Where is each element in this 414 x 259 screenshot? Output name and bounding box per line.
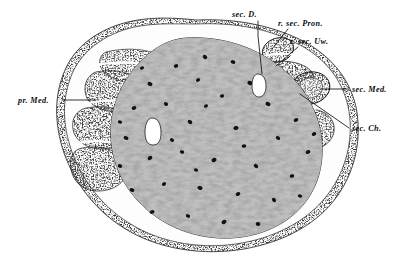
left-vacuole-lumen <box>145 118 161 145</box>
label-sec-d: sec. D. <box>231 10 257 19</box>
figure-root: sec. D. r. sec. Pron. r. sec. Uw. sec. M… <box>0 0 414 259</box>
label-sec-ch: sec. Ch. <box>351 124 381 133</box>
cross-section-illustration: sec. D. r. sec. Pron. r. sec. Uw. sec. M… <box>0 0 414 259</box>
label-r-sec-pron: r. sec. Pron. <box>278 19 323 28</box>
secondary-duct-lumen <box>252 74 266 97</box>
label-sec-med: sec. Med. <box>351 85 387 94</box>
label-pr-med: pr. Med. <box>17 96 49 105</box>
label-r-sec-uw: r. sec. Uw. <box>290 37 328 46</box>
